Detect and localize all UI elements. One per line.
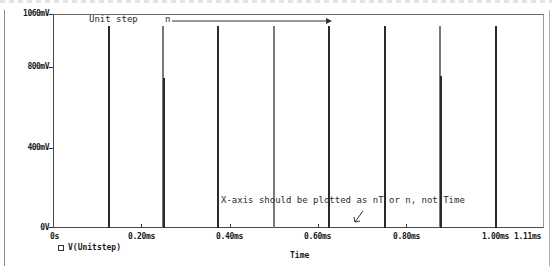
- impulse-n7-lower: [440, 76, 442, 228]
- x-tick-0-60ms: [318, 224, 319, 228]
- x-tick-label-0-20ms: 0.20ms: [128, 232, 155, 241]
- impulse-n3: [217, 26, 219, 228]
- x-axis-title: Time: [290, 251, 309, 260]
- frame-right-border: [549, 10, 550, 266]
- impulse-n2-lower: [163, 78, 165, 228]
- x-tick-label-1-11ms: 1.11ms: [514, 232, 541, 241]
- top-border-decoration: [0, 0, 552, 3]
- x-tick-0-20ms: [141, 224, 142, 228]
- y-tick-400mv: [49, 148, 53, 149]
- arrow-label-n: n: [165, 14, 170, 24]
- y-tick-label-800mv: 800mV: [27, 62, 49, 71]
- down-left-arrow-icon: [353, 210, 365, 224]
- x-tick-label-1-00ms: 1.00ms: [482, 232, 509, 241]
- x-tick-label-0s: 0s: [50, 232, 59, 241]
- frame-left-border: [4, 10, 5, 266]
- x-tick-label-0-60ms: 0.60ms: [304, 232, 331, 241]
- y-tick-label-400mv: 400mV: [27, 143, 49, 152]
- x-tick-0-40ms: [230, 224, 231, 228]
- legend-label: V(Unitstep): [68, 243, 121, 252]
- right-arrow-icon: [172, 17, 332, 25]
- chart-title-annotation: Unit step: [89, 14, 138, 24]
- x-tick-0-80ms: [406, 224, 407, 228]
- y-tick-0v: [49, 227, 53, 228]
- legend: V(Unitstep): [58, 243, 121, 252]
- impulse-n8: [495, 26, 497, 228]
- y-tick-label-1060mv: 1060mV: [23, 9, 49, 18]
- y-tick-1060mv: [49, 14, 53, 15]
- impulse-n1: [108, 26, 110, 228]
- x-tick-label-0-40ms: 0.40ms: [216, 232, 243, 241]
- axis-note-annotation: X-axis should be plotted as nT or n, not…: [221, 195, 465, 205]
- y-tick-800mv: [49, 67, 53, 68]
- legend-marker-icon: [58, 245, 64, 251]
- y-tick-label-0v: 0V: [40, 223, 49, 232]
- x-tick-label-0-80ms: 0.80ms: [393, 232, 420, 241]
